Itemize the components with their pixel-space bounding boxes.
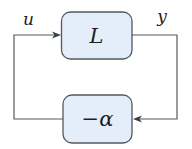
feedback-diagram: L −α u y xyxy=(0,0,192,149)
wire-feedback-u xyxy=(14,35,63,119)
block-L: L xyxy=(62,12,133,59)
signal-u-label: u xyxy=(23,9,34,29)
wire-output-y xyxy=(132,35,177,119)
block-alpha: −α xyxy=(63,95,132,143)
signal-y-label: y xyxy=(156,6,167,26)
block-L-label: L xyxy=(89,24,104,48)
block-alpha-label: −α xyxy=(82,107,114,131)
